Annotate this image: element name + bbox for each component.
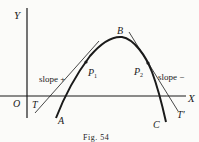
slope-positive-label: slope + bbox=[39, 74, 65, 84]
y-axis-label: Y bbox=[14, 9, 22, 21]
tangent-t-prime-label: T′ bbox=[177, 109, 186, 120]
origin-label: O bbox=[13, 98, 20, 109]
point-a-label: A bbox=[57, 115, 65, 126]
figure-caption: Fig. 54 bbox=[83, 133, 109, 142]
curve-abc bbox=[56, 37, 166, 122]
x-axis-label: X bbox=[187, 92, 196, 104]
tangent-t-label: T bbox=[32, 99, 39, 110]
slope-negative-label: slope − bbox=[158, 72, 184, 82]
point-p1-label: P1 bbox=[87, 67, 97, 79]
figure-diagram: Y X O T T′ A B C P1 P2 slope + slope − F… bbox=[0, 0, 199, 142]
point-p2 bbox=[146, 61, 149, 64]
point-p1 bbox=[84, 60, 87, 63]
point-c-label: C bbox=[153, 119, 160, 130]
point-b-label: B bbox=[117, 25, 123, 36]
point-p2-label: P2 bbox=[133, 66, 143, 78]
